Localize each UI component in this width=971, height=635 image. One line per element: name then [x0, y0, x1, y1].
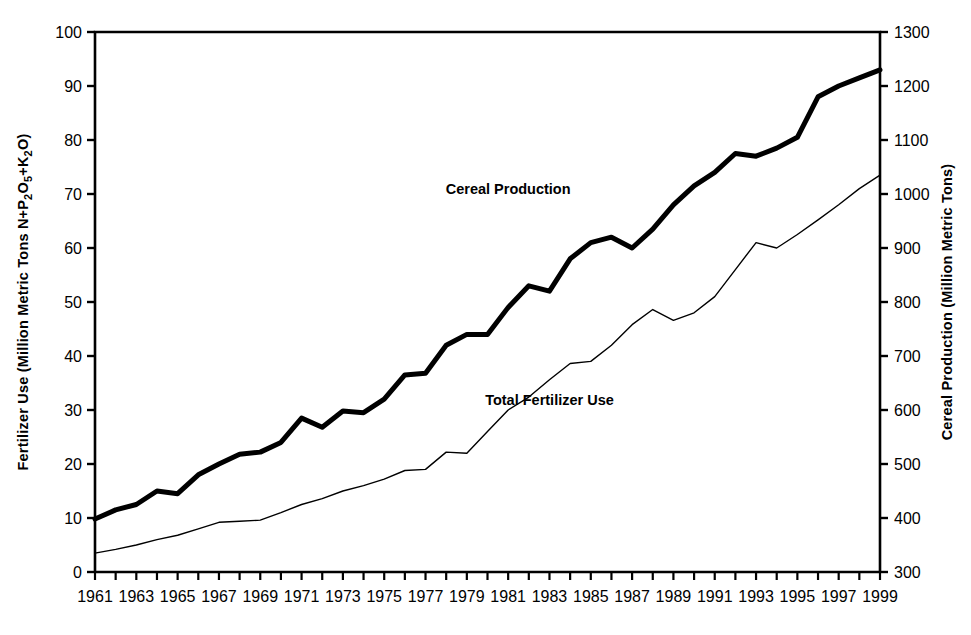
series-line-1	[95, 70, 880, 519]
y-axis-left-tick-label: 30	[64, 402, 82, 419]
y-axis-right-tick-label: 800	[894, 294, 921, 311]
x-axis-tick-label: 1983	[532, 588, 568, 605]
line-chart: 0102030405060708090100300400500600700800…	[0, 0, 971, 635]
x-axis-tick-label: 1969	[242, 588, 278, 605]
chart-figure: 0102030405060708090100300400500600700800…	[0, 0, 971, 635]
x-axis-tick-label: 1975	[366, 588, 402, 605]
x-axis-tick-label: 1977	[408, 588, 444, 605]
y-axis-left-tick-label: 10	[64, 510, 82, 527]
y-axis-left-tick-label: 70	[64, 186, 82, 203]
series-annotation-2: Total Fertilizer Use	[485, 392, 614, 408]
y-axis-left-tick-label: 60	[64, 240, 82, 257]
x-axis-tick-label: 1973	[325, 588, 361, 605]
y-axis-left-tick-label: 90	[64, 78, 82, 95]
y-axis-right-tick-label: 900	[894, 240, 921, 257]
x-axis-tick-label: 1997	[821, 588, 857, 605]
x-axis-tick-label: 1971	[284, 588, 320, 605]
x-axis-tick-label: 1961	[77, 588, 113, 605]
y-axis-right-tick-label: 500	[894, 456, 921, 473]
x-axis-tick-label: 1987	[614, 588, 650, 605]
y-axis-left-tick-label: 80	[64, 132, 82, 149]
y-axis-left-tick-label: 50	[64, 294, 82, 311]
x-axis-tick-label: 1999	[862, 588, 898, 605]
y-axis-left-title: Fertilizer Use (Million Metric Tons N+P2…	[15, 134, 34, 471]
x-axis-tick-label: 1965	[160, 588, 196, 605]
y-axis-right-tick-label: 1200	[894, 78, 930, 95]
y-axis-left-tick-label: 0	[73, 564, 82, 581]
x-axis-tick-label: 1989	[656, 588, 692, 605]
y-axis-left-tick-label: 100	[55, 24, 82, 41]
y-axis-right-tick-label: 700	[894, 348, 921, 365]
x-axis-tick-label: 1995	[780, 588, 816, 605]
y-axis-right-tick-label: 300	[894, 564, 921, 581]
x-axis-tick-label: 1985	[573, 588, 609, 605]
x-axis-tick-label: 1993	[738, 588, 774, 605]
x-axis-tick-label: 1963	[119, 588, 155, 605]
x-axis-tick-label: 1979	[449, 588, 485, 605]
y-axis-left-tick-label: 40	[64, 348, 82, 365]
x-axis-tick-label: 1967	[201, 588, 237, 605]
series-line-2	[95, 175, 880, 553]
y-axis-right-tick-label: 1300	[894, 24, 930, 41]
x-axis-tick-label: 1981	[490, 588, 526, 605]
plot-frame	[95, 32, 880, 572]
y-axis-right-tick-label: 400	[894, 510, 921, 527]
series-annotation-1: Cereal Production	[446, 181, 571, 197]
y-axis-right-tick-label: 1000	[894, 186, 930, 203]
y-axis-left-tick-label: 20	[64, 456, 82, 473]
y-axis-right-title: Cereal Production (Million Metric Tons)	[939, 164, 955, 441]
y-axis-right-tick-label: 1100	[894, 132, 929, 149]
x-axis-tick-label: 1991	[697, 588, 733, 605]
y-axis-right-tick-label: 600	[894, 402, 921, 419]
